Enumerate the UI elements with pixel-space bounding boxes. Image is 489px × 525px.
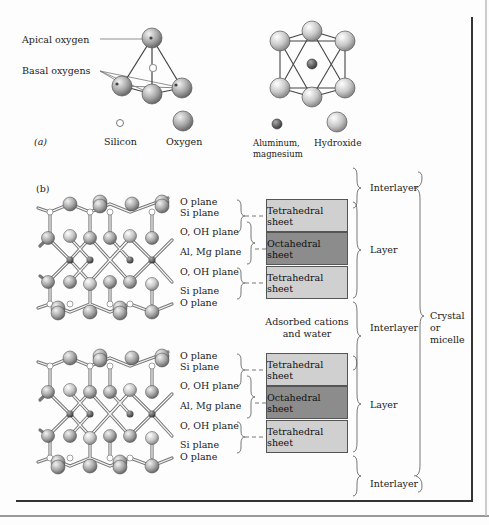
crystal-label: Crystal (430, 310, 465, 321)
panel-a-label: (a) (34, 136, 47, 147)
silicon-legend-icon (117, 120, 124, 127)
lattice-model-upper (38, 195, 172, 320)
plane-label: O plane (180, 196, 217, 207)
tetrahedral-sheet: Tetrahedral sheet (266, 420, 348, 453)
aluminum-legend-icon (272, 119, 282, 129)
basal-oxygens-label: Basal oxygens (22, 65, 90, 76)
interlayer-middle-label: Interlayer (370, 322, 418, 333)
oxygen-legend-label: Oxygen (166, 136, 202, 147)
plane-label: Al, Mg plane (180, 246, 241, 257)
octahedron-model (270, 21, 355, 107)
plane-label: O plane (180, 297, 217, 308)
hydroxide-legend-icon (327, 112, 347, 132)
interlayer-bottom-label: Interlayer (370, 478, 418, 489)
tetrahedron-model (100, 28, 192, 104)
plane-label: O, OH plane (180, 420, 239, 431)
plane-label: O, OH plane (180, 380, 239, 391)
plane-label: O, OH plane (180, 266, 239, 277)
plane-label: Si plane (180, 439, 219, 450)
hydroxide-legend-label: Hydroxide (314, 138, 361, 149)
interlayer-top-label: Interlayer (370, 182, 418, 193)
plane-label: Si plane (180, 207, 219, 218)
panel-b-label: (b) (36, 183, 50, 194)
plane-label: Al, Mg plane (180, 400, 241, 411)
layer-upper-label: Layer (370, 244, 398, 255)
layer-lower-label: Layer (370, 399, 398, 410)
micelle-label: micelle (430, 334, 465, 345)
tetrahedral-sheet: Tetrahedral sheet (266, 353, 348, 386)
plane-label: Si plane (180, 361, 219, 372)
plane-label: Si plane (180, 285, 219, 296)
plane-label: O plane (180, 350, 217, 361)
magnesium-legend-label: magnesium (253, 149, 303, 160)
octahedral-sheet: Octahedral sheet (266, 386, 348, 419)
plane-label: O, OH plane (180, 226, 239, 237)
apical-oxygen-label: Apical oxygen (22, 34, 89, 45)
octahedral-sheet: Octahedral sheet (266, 232, 348, 265)
aluminum-legend-label: Aluminum, (253, 138, 300, 149)
lattice-model-lower (38, 349, 172, 474)
adsorbed-cations-label: Adsorbed cations (262, 316, 352, 327)
adsorbed-water-label: and water (262, 328, 352, 339)
tetrahedral-sheet: Tetrahedral sheet (266, 199, 348, 232)
tetrahedral-sheet: Tetrahedral sheet (266, 266, 348, 299)
silicon-legend-label: Silicon (104, 136, 137, 147)
plane-label: O plane (180, 451, 217, 462)
oxygen-legend-icon (173, 111, 193, 131)
diagram-graphics (0, 0, 489, 525)
crystal-or-label: or (430, 322, 440, 333)
